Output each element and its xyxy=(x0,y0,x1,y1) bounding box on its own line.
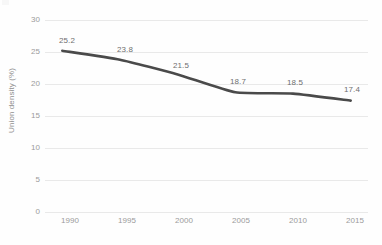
gridline-20 xyxy=(45,84,368,85)
x-axis-ticks: 1990 1995 2000 2005 2010 2015 xyxy=(45,216,368,230)
y-tick-label-30: 30 xyxy=(0,16,40,24)
data-label-1990: 25.2 xyxy=(59,37,75,45)
gridline-5 xyxy=(45,180,368,181)
cropped-title-remnant xyxy=(2,0,9,5)
data-label-2010: 18.5 xyxy=(287,79,303,87)
plot-area xyxy=(45,20,368,212)
gridline-25 xyxy=(45,52,368,53)
line-chart: 30 25 20 15 10 5 0 Union density (%) 199… xyxy=(0,0,382,245)
y-axis-title: Union density (%) xyxy=(7,55,16,147)
gridline-0 xyxy=(45,212,368,213)
x-tick-label-2010: 2010 xyxy=(275,216,321,225)
gridline-15 xyxy=(45,116,368,117)
x-tick-label-2005: 2005 xyxy=(218,216,264,225)
data-label-2015: 17.4 xyxy=(344,86,360,94)
data-label-2000: 21.5 xyxy=(173,62,189,70)
x-tick-label-1995: 1995 xyxy=(104,216,150,225)
data-label-1995: 23.8 xyxy=(117,46,133,54)
y-tick-label-5: 5 xyxy=(0,176,40,184)
gridline-10 xyxy=(45,148,368,149)
x-tick-label-2000: 2000 xyxy=(161,216,207,225)
gridline-30 xyxy=(45,20,368,21)
data-label-2005: 18.7 xyxy=(230,78,246,86)
x-tick-label-2015: 2015 xyxy=(332,216,378,225)
y-tick-label-0: 0 xyxy=(0,208,40,216)
x-tick-label-1990: 1990 xyxy=(47,216,93,225)
